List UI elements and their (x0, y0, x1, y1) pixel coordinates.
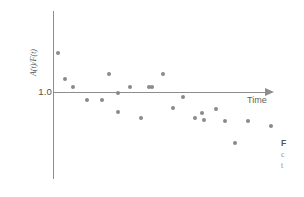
data-point (233, 141, 237, 145)
y-axis-line (53, 11, 54, 179)
data-point (193, 116, 197, 120)
data-point (63, 77, 67, 81)
figure-root: 1.0 A(t)/F(t) Time F c t (0, 0, 304, 197)
x-axis-line (53, 92, 267, 93)
caption-line-3: t (281, 160, 304, 171)
x-axis-label: Time (247, 95, 267, 106)
data-point (161, 72, 165, 76)
caption-line-1: F (281, 138, 304, 149)
y-axis-tick-label: 1.0 (38, 86, 52, 97)
figure-caption: F c t (281, 138, 304, 171)
data-point (139, 116, 143, 120)
y-axis-label: A(t)/F(t) (29, 27, 38, 99)
data-point (56, 51, 60, 55)
scatter-plot: 1.0 A(t)/F(t) Time (0, 0, 304, 197)
data-point (128, 85, 132, 89)
caption-line-2: c (281, 149, 304, 160)
data-point (246, 119, 250, 123)
data-point (116, 110, 120, 114)
data-point (269, 124, 273, 128)
data-point (200, 111, 204, 115)
data-point (71, 85, 75, 89)
data-point (202, 118, 206, 122)
data-point (85, 98, 89, 102)
data-point (100, 98, 104, 102)
data-point (214, 107, 218, 111)
data-point (171, 106, 175, 110)
data-point (150, 85, 154, 89)
data-point (116, 91, 120, 95)
data-point (223, 119, 227, 123)
data-point (107, 72, 111, 76)
data-point (181, 95, 185, 99)
